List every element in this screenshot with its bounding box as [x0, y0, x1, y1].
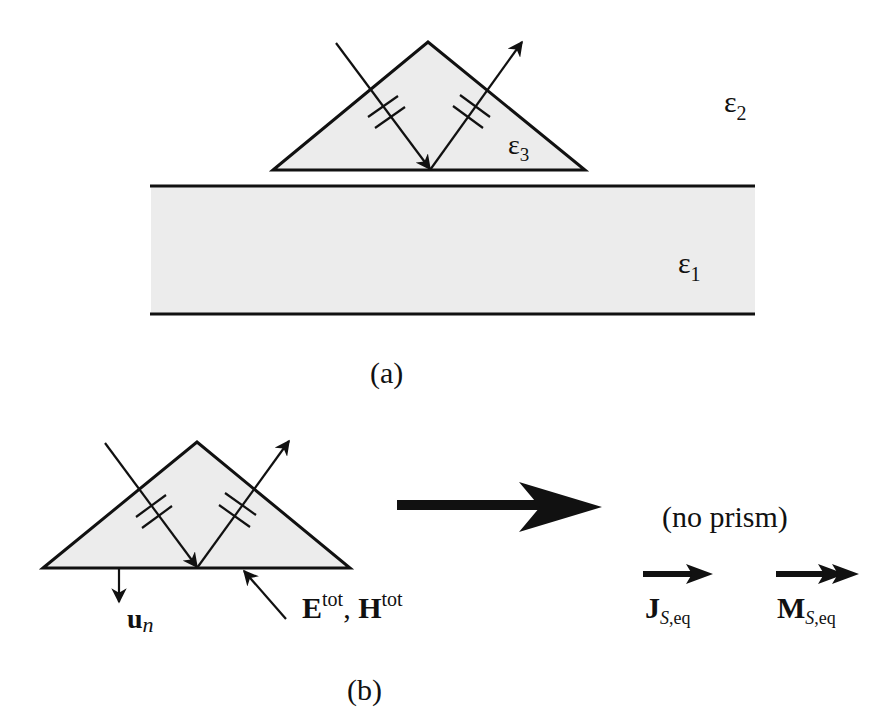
normal-vector-label: un [127, 603, 154, 637]
slab-region [151, 186, 755, 314]
panel-a-caption: (a) [370, 356, 403, 390]
magnetic-current-arrow [776, 564, 859, 584]
electric-current-arrow [643, 564, 713, 584]
prism-a [273, 42, 585, 170]
panel-b: un Etot, Htot (no prism) JS,eq MS,eq [43, 441, 859, 707]
equivalence-arrow [397, 482, 602, 532]
panel-a: ε2 ε1 ε3 (a) [150, 42, 755, 390]
panel-b-caption: (b) [347, 673, 382, 707]
total-fields-label: Etot, Htot [302, 588, 403, 624]
prism-b [43, 442, 350, 568]
total-field-arrow [244, 571, 286, 619]
magnetic-current-label: MS,eq [777, 591, 836, 628]
figure-canvas: ε2 ε1 ε3 (a) un Eto [0, 0, 896, 715]
no-prism-note: (no prism) [662, 500, 788, 534]
epsilon-2-label: ε2 [724, 85, 747, 124]
electric-current-label: JS,eq [645, 591, 691, 628]
